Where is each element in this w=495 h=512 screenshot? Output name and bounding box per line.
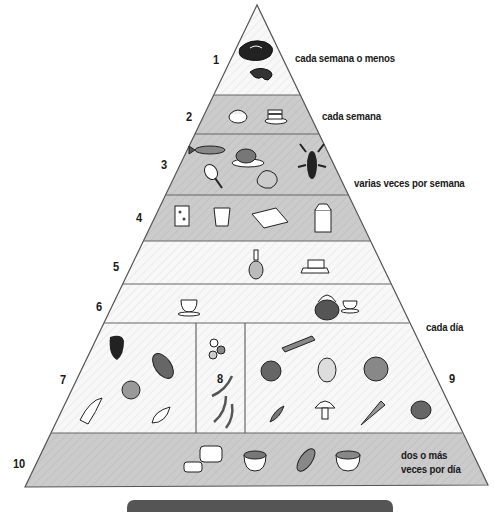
frequency-label-10-line-2: veces por día [401,462,461,476]
cereal-bowl-icon [244,451,266,471]
lemon-icon [122,381,140,399]
cheese-icon [175,206,189,226]
level-number-6: 6 [96,299,102,314]
frequency-label-3: varias veces por semana [354,176,465,190]
frequency-label-1: cada semana o menos [295,51,395,65]
frequency-label-7-9: cada día [426,320,463,334]
frequency-label-2: cada semana [322,109,381,123]
level-number-10: 10 [13,456,25,471]
level-number-7: 7 [60,372,66,387]
tomato-icon [261,361,281,381]
lettuce-icon [364,357,388,381]
sugar-bowl-icon [229,110,247,123]
level-number-8: 8 [217,371,223,386]
yogurt-icon [214,208,230,226]
band-2 [195,95,319,134]
rice-bowl-icon [336,451,360,471]
level-number-2: 2 [186,109,192,124]
level-number-4: 4 [136,210,142,225]
level-number-9: 9 [449,371,455,386]
milk-carton-icon [315,204,331,232]
bottom-caption-bar [127,500,393,512]
level-number-3: 3 [161,157,167,172]
level-number-5: 5 [113,259,119,274]
level-number-1: 1 [213,52,219,67]
onion-icon [411,401,431,419]
frequency-label-10-line-1: dos o más [401,448,447,462]
potato-icon [318,358,336,382]
band-6 [104,284,409,323]
